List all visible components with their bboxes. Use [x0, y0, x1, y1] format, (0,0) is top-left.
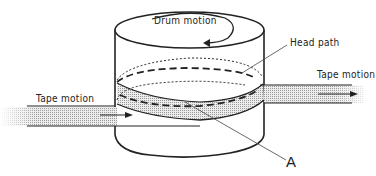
point-a-label: A [286, 153, 296, 170]
head-path-label: Head path [290, 37, 340, 48]
tape-motion-right-label: Tape motion [317, 69, 375, 80]
tape-wrap [117, 83, 264, 120]
helical-scan-diagram [0, 0, 376, 176]
tape-right [260, 83, 370, 105]
tape-motion-left-label: Tape motion [36, 93, 94, 104]
drum [115, 12, 264, 157]
drum-motion-label: Drum motion [154, 15, 217, 26]
